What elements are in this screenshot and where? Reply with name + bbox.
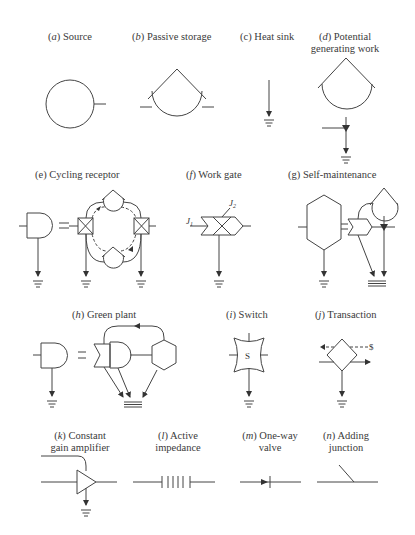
adding-junction-symbol bbox=[317, 465, 378, 482]
svg-text:J1: J1 bbox=[186, 216, 193, 227]
energy-systems-symbols-diagram: J1 J2 bbox=[0, 0, 415, 535]
one-way-valve-symbol bbox=[240, 476, 301, 488]
svg-text:J2: J2 bbox=[229, 198, 236, 209]
source-symbol bbox=[46, 80, 106, 128]
transaction-symbol: $ bbox=[319, 339, 374, 407]
svg-text:$: $ bbox=[369, 342, 374, 352]
heat-sink-symbol bbox=[264, 80, 274, 126]
self-maintenance-symbol bbox=[298, 188, 398, 287]
switch-symbol: S bbox=[229, 333, 268, 407]
potential-generating-work-symbol bbox=[318, 58, 375, 163]
cycling-receptor-symbol bbox=[19, 190, 156, 287]
constant-gain-amplifier-symbol bbox=[41, 456, 117, 516]
switch-s-label: S bbox=[245, 351, 250, 361]
passive-storage-symbol bbox=[140, 69, 214, 116]
work-gate-symbol: J1 J2 bbox=[186, 198, 251, 287]
active-impedance-symbol bbox=[133, 476, 215, 488]
green-plant-symbol bbox=[33, 323, 176, 407]
